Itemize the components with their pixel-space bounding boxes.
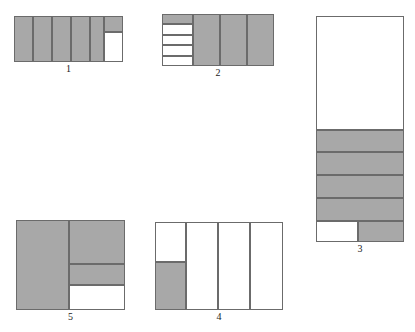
cell-3-e: [316, 198, 404, 221]
cell-3-f: [316, 221, 358, 242]
cell-3-b: [316, 130, 404, 152]
cell-5-b: [69, 220, 125, 264]
figure-4: [155, 222, 283, 310]
cell-2-g: [220, 14, 247, 66]
figure-5: [16, 220, 125, 310]
figure-3-caption: 3: [316, 243, 404, 255]
cell-5-d: [69, 285, 125, 310]
figure-3: [316, 16, 404, 242]
cell-4-d: [218, 222, 250, 310]
figure-canvas: 12345: [0, 0, 415, 332]
cell-2-a: [162, 14, 193, 24]
cell-4-e: [250, 222, 283, 310]
figure-2-caption: 2: [162, 67, 274, 79]
cell-1-g: [104, 32, 123, 62]
figure-1-caption: 1: [14, 63, 123, 75]
cell-5-c: [69, 264, 125, 285]
cell-1-f: [104, 16, 123, 32]
cell-4-b: [155, 262, 186, 310]
cell-2-e: [162, 56, 193, 66]
cell-1-d: [71, 16, 90, 62]
cell-1-e: [90, 16, 104, 62]
cell-2-f: [193, 14, 220, 66]
cell-2-c: [162, 35, 193, 45]
figure-5-caption: 5: [16, 311, 125, 323]
figure-4-caption: 4: [155, 311, 283, 323]
cell-2-d: [162, 45, 193, 56]
cell-1-b: [33, 16, 52, 62]
cell-4-c: [186, 222, 218, 310]
cell-4-a: [155, 222, 186, 262]
cell-1-c: [52, 16, 71, 62]
figure-1: [14, 16, 123, 62]
cell-3-c: [316, 152, 404, 175]
figure-2: [162, 14, 274, 66]
cell-3-g: [358, 221, 404, 242]
cell-1-a: [14, 16, 33, 62]
cell-5-a: [16, 220, 69, 310]
cell-2-h: [247, 14, 274, 66]
cell-2-b: [162, 24, 193, 35]
cell-3-a: [316, 16, 404, 130]
cell-3-d: [316, 175, 404, 198]
